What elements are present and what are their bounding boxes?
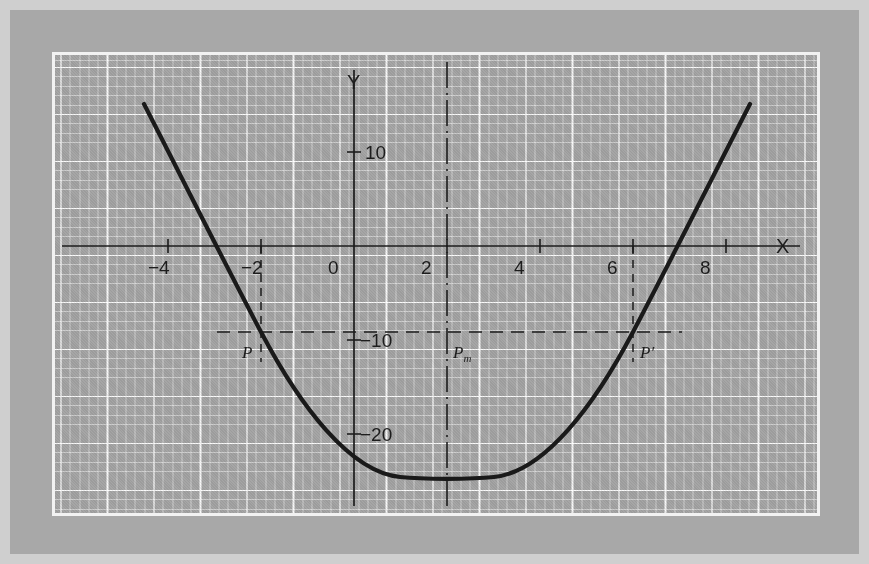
x-tick-label--4: −4	[148, 258, 170, 277]
x-tick-label-4: 4	[514, 258, 525, 277]
y-tick-label--20: −20	[360, 425, 392, 444]
x-tick-label-6: 6	[607, 258, 618, 277]
point-label-Pm-base: P	[453, 343, 463, 362]
figure-panel: −4 −2 0 2 4 6 8 10 −10 −20 Y X P Pm P′	[10, 10, 859, 554]
y-tick-label--10: −10	[360, 331, 392, 350]
x-tick-label-0: 0	[328, 258, 339, 277]
y-tick-label-10: 10	[365, 143, 386, 162]
paper-grain-texture	[55, 55, 817, 513]
graph-paper-plate	[52, 52, 820, 516]
x-tick-label-8: 8	[700, 258, 711, 277]
point-label-P-prime: P′	[640, 344, 654, 361]
point-label-Pm-subscript: m	[463, 352, 471, 364]
y-axis-title: Y	[347, 72, 360, 92]
x-tick-label-2: 2	[421, 258, 432, 277]
point-label-P: P	[242, 344, 252, 361]
x-tick-label--2: −2	[241, 258, 263, 277]
x-axis-title: X	[776, 236, 789, 256]
point-label-Pm: Pm	[453, 344, 471, 364]
